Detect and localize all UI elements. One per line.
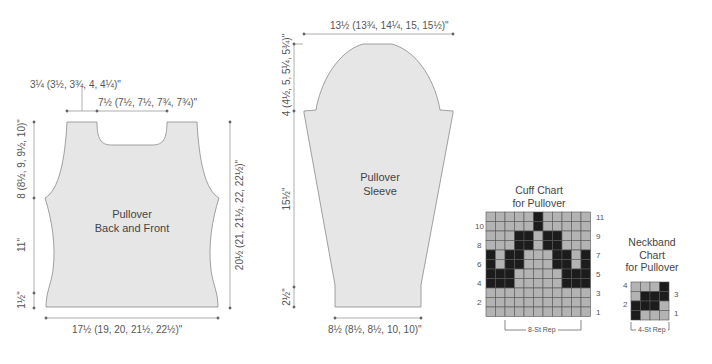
chart-cell: [641, 311, 651, 321]
chart-cell: [524, 250, 534, 260]
shoulder-width-dim: 3¼ (3½, 3¾, 4, 4¼)": [30, 80, 121, 90]
chart-cell: [496, 212, 506, 222]
chart-cell: [553, 260, 563, 270]
cuff-row-num-2: 2: [477, 298, 481, 307]
chart-cell: [553, 212, 563, 222]
chart-cell: [524, 307, 534, 317]
chart-cell: [562, 231, 572, 241]
neckband-chart-grid: [631, 282, 669, 320]
chart-cell: [543, 241, 553, 251]
chart-cell: [631, 282, 641, 292]
chart-cell: [524, 222, 534, 232]
chart-cell: [562, 288, 572, 298]
chart-cell: [650, 301, 660, 311]
cuff-row-num-5: 5: [596, 270, 600, 279]
chart-cell: [562, 250, 572, 260]
chart-cell: [572, 231, 582, 241]
chart-cell: [486, 307, 496, 317]
chart-cell: [562, 241, 572, 251]
sleeve-piece-label: Pullover Sleeve: [340, 171, 420, 199]
chart-cell: [553, 307, 563, 317]
chart-cell: [496, 250, 506, 260]
cuff-row-num-6: 6: [477, 260, 481, 269]
chart-cell: [515, 231, 525, 241]
sleeve-taper-length-dim: 15½": [282, 179, 292, 219]
sleeve-cuff-depth-dim: 2½": [282, 277, 292, 317]
sleeve-upper-width-dim: 13½ (13¾, 14¼, 15, 15½)": [330, 21, 449, 31]
chart-cell: [581, 307, 591, 317]
chart-cell: [534, 222, 544, 232]
chart-cell: [524, 269, 534, 279]
chart-cell: [505, 260, 515, 270]
chart-cell: [505, 250, 515, 260]
chart-cell: [641, 301, 651, 311]
cuff-title-line2: for Pullover: [496, 197, 582, 210]
chart-cell: [486, 231, 496, 241]
chart-cell: [572, 260, 582, 270]
chart-cell: [572, 307, 582, 317]
chart-cell: [515, 288, 525, 298]
chart-cell: [534, 260, 544, 270]
chart-cell: [486, 212, 496, 222]
chart-cell: [496, 222, 506, 232]
chart-cell: [543, 212, 553, 222]
chart-cell: [505, 212, 515, 222]
chart-cell: [581, 298, 591, 308]
chart-cell: [562, 307, 572, 317]
chart-cell: [486, 241, 496, 251]
chart-cell: [524, 260, 534, 270]
chart-cell: [553, 269, 563, 279]
chart-cell: [543, 222, 553, 232]
chart-cell: [553, 288, 563, 298]
chart-cell: [660, 292, 670, 302]
chart-cell: [486, 279, 496, 289]
chart-cell: [562, 222, 572, 232]
chart-cell: [553, 298, 563, 308]
neck-row-num-2: 2: [623, 300, 627, 309]
chart-cell: [515, 212, 525, 222]
chart-cell: [505, 279, 515, 289]
cuff-title-line1: Cuff Chart: [496, 184, 582, 197]
chart-cell: [496, 241, 506, 251]
chart-cell: [660, 311, 670, 321]
chart-cell: [641, 282, 651, 292]
chart-cell: [515, 241, 525, 251]
chart-cell: [534, 241, 544, 251]
cuff-row-num-4: 4: [477, 279, 481, 288]
chart-cell: [515, 269, 525, 279]
chart-cell: [534, 231, 544, 241]
chart-cell: [505, 269, 515, 279]
neck-width-dim: 7½ (7½, 7½, 7¾, 7¾)": [98, 98, 197, 108]
body-piece-label: Pullover Back and Front: [82, 208, 182, 236]
chart-cell: [515, 260, 525, 270]
neckband-title-line3: for Pullover: [614, 261, 690, 274]
chart-cell: [524, 241, 534, 251]
chart-cell: [515, 222, 525, 232]
neckband-title-line1: Neckband: [614, 236, 690, 249]
neck-row-num-3: 3: [674, 290, 678, 299]
chart-cell: [660, 282, 670, 292]
chart-cell: [572, 222, 582, 232]
chart-cell: [641, 292, 651, 302]
chart-cell: [486, 222, 496, 232]
chart-cell: [534, 307, 544, 317]
chart-cell: [543, 279, 553, 289]
neck-row-num-1: 1: [674, 309, 678, 318]
sleeve-label-line1: Pullover: [340, 171, 420, 185]
chart-cell: [515, 298, 525, 308]
chart-cell: [515, 307, 525, 317]
chart-cell: [581, 250, 591, 260]
chart-cell: [543, 298, 553, 308]
chart-cell: [572, 298, 582, 308]
cuff-row-num-1: 1: [596, 308, 600, 317]
chart-cell: [572, 288, 582, 298]
chart-cell: [534, 279, 544, 289]
chart-cell: [543, 269, 553, 279]
chart-cell: [650, 292, 660, 302]
chart-cell: [543, 288, 553, 298]
sleeve-cuff-width-dim: 8½ (8½, 8½, 10, 10)": [328, 325, 422, 335]
armhole-depth-dim: 8 (8½, 9, 9½, 10)": [17, 104, 27, 214]
cuff-repeat-label: 8-St Rep: [526, 326, 558, 333]
chart-cell: [553, 279, 563, 289]
chart-cell: [572, 241, 582, 251]
